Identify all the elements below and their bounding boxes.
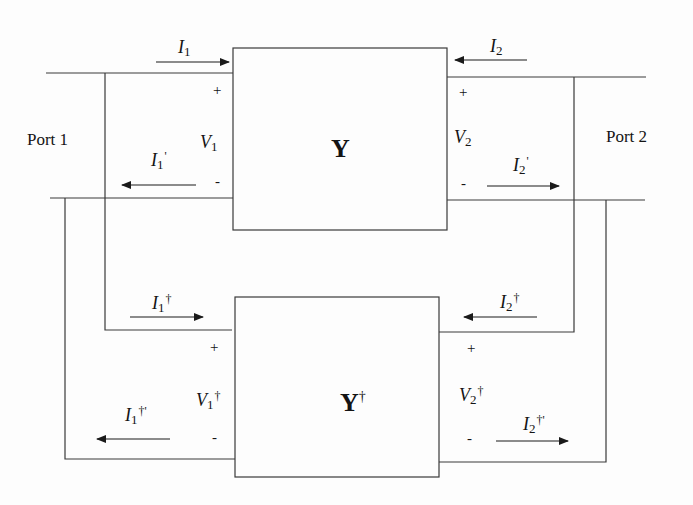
v2-plus-sign: + [459,85,467,100]
y-dagger-block-outline [235,297,439,477]
symbol-base: V [196,390,207,410]
v1-plus-sign: + [213,83,221,98]
v2-minus-sign: - [461,176,466,191]
symbol-superscript: ' [165,149,167,163]
y-dagger-block-label: Y† [340,390,366,416]
v2-dagger-minus-sign: - [467,431,472,446]
two-port-diagram: Port 1 Port 2 Y Y† I1 I2 I1' I2' V1 V2 +… [0,0,693,505]
current-i2-dagger-prime-label: I2†' [523,414,545,435]
voltage-v2-label: V2 [454,128,472,148]
symbol-subscript: 1 [131,412,138,427]
voltage-v1-dagger-label: V1† [196,390,221,411]
symbol-superscript: † [215,389,221,403]
symbol-subscript: 2 [506,299,513,314]
v2-dagger-plus-sign: + [467,341,475,356]
symbol-superscript: † [166,292,172,306]
symbol-subscript: 1 [211,139,218,154]
current-i2-prime-label: I2' [513,155,529,176]
symbol-superscript: †' [139,404,147,418]
current-i1-label: I1 [178,38,191,58]
symbol-subscript: 2 [529,421,536,436]
symbol-subscript: 1 [184,44,191,59]
current-i1-dagger-label: I1† [152,293,172,314]
v1-dagger-plus-sign: + [210,340,218,355]
v1-minus-sign: - [215,174,220,189]
symbol-subscript: 2 [465,134,472,149]
symbol-subscript: 2 [519,162,526,177]
circuit-wiring [0,0,693,505]
current-i1-prime-label: I1' [151,150,167,171]
y-block-symbol: Y [331,134,350,163]
symbol-base: V [459,385,470,405]
current-i2-dagger-label: I2† [500,292,520,313]
symbol-subscript: 1 [157,157,164,172]
y-dagger-symbol: Y [340,388,359,417]
port-1-label: Port 1 [27,131,68,148]
left-outer-wire [65,198,235,459]
dagger-superscript: † [359,389,366,404]
voltage-v2-dagger-label: V2† [459,385,484,406]
symbol-superscript: † [478,384,484,398]
symbol-subscript: 1 [207,397,214,412]
symbol-subscript: 2 [470,392,477,407]
voltage-v1-label: V1 [200,133,218,153]
symbol-base: V [200,132,211,152]
symbol-superscript: †' [537,413,545,427]
v1-dagger-minus-sign: - [212,430,217,445]
current-i2-label: I2 [490,37,503,57]
port-2-label: Port 2 [606,128,647,145]
symbol-superscript: ' [527,154,529,168]
current-i1-dagger-prime-label: I1†' [125,405,147,426]
symbol-subscript: 2 [496,43,503,58]
symbol-subscript: 1 [158,300,165,315]
y-block-label: Y [331,136,350,162]
symbol-base: V [454,127,465,147]
symbol-superscript: † [514,291,520,305]
